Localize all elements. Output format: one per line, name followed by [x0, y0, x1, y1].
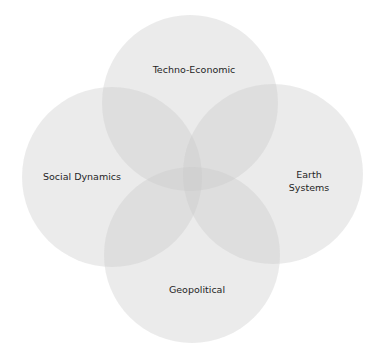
circle-geopolitical	[104, 167, 280, 343]
label-techno-economic: Techno-Economic	[152, 64, 236, 75]
label-earth-systems-line-2: Systems	[289, 182, 329, 193]
label-earth-systems-line-1: Earth	[296, 169, 321, 180]
label-social-dynamics: Social Dynamics	[43, 171, 121, 182]
label-geopolitical: Geopolitical	[169, 284, 225, 295]
venn-diagram: Techno-Economic Social Dynamics Earth Sy…	[0, 0, 381, 355]
